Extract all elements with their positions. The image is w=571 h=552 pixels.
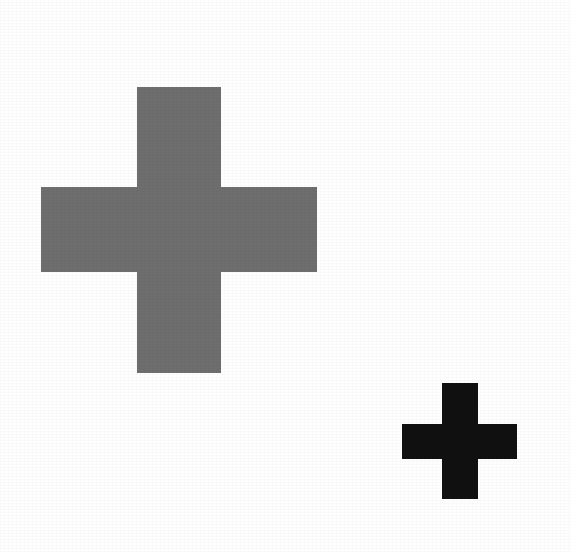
large-gray-cross — [41, 87, 317, 373]
large-gray-cross-path — [41, 87, 317, 373]
small-black-cross-svg — [402, 383, 517, 499]
large-gray-cross-svg — [41, 87, 317, 373]
small-black-cross-path — [402, 383, 517, 499]
image-canvas — [0, 0, 571, 552]
small-black-cross — [402, 383, 517, 499]
